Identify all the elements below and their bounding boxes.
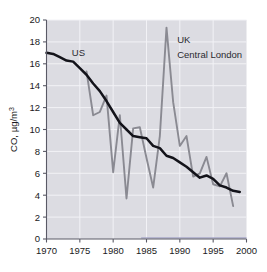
y-tick-label-14: 14 [29,80,40,91]
y-axis-title-text: CO, µg/m [8,111,19,152]
y-axis-ticks: 02468101214161820 [29,14,46,244]
y-tick-label-12: 12 [29,102,40,113]
y-tick-label-16: 16 [29,58,40,69]
co-concentration-line-chart: 02468101214161820 1970197519801985199019… [0,0,267,272]
annotation-us: US [72,47,85,58]
annotation-central-london: Central London [177,49,242,60]
y-tick-label-6: 6 [35,168,40,179]
y-axis-title: CO, µg/m3 [8,107,20,152]
x-tick-label-1990: 1990 [169,245,190,256]
y-axis-title-label: CO, µg/m3 [8,107,20,152]
x-tick-label-2000: 2000 [236,245,257,256]
x-tick-label-1975: 1975 [69,245,90,256]
y-tick-label-20: 20 [29,14,40,25]
y-tick-label-18: 18 [29,36,40,47]
y-tick-label-2: 2 [35,212,40,223]
y-tick-label-4: 4 [35,190,40,201]
x-tick-label-1970: 1970 [36,245,57,256]
chart-svg: 02468101214161820 1970197519801985199019… [0,0,267,272]
y-tick-label-10: 10 [29,124,40,135]
y-tick-label-0: 0 [35,233,40,244]
x-tick-label-1980: 1980 [103,245,124,256]
y-axis-title-rotated: CO, µg/m3 [8,107,20,152]
y-tick-label-8: 8 [35,146,40,157]
x-tick-label-1995: 1995 [203,245,224,256]
x-tick-label-1985: 1985 [136,245,157,256]
annotation-uk: UK [177,34,191,45]
y-axis-title-exponent: 3 [8,107,15,111]
x-axis-ticks: 1970197519801985199019952000 [36,239,257,256]
